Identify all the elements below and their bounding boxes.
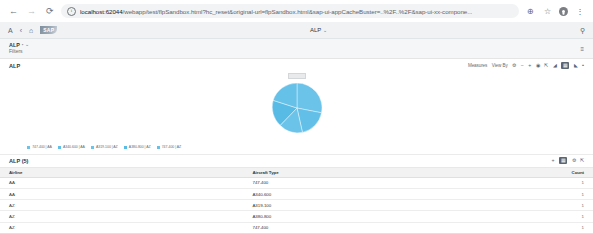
pie-slices (272, 83, 322, 133)
legend-swatch-icon (91, 146, 94, 149)
legend-label: 747-400 | AZ (162, 146, 181, 150)
shell-bar-right-actions: ⚲ (580, 27, 585, 34)
table-toolbar: ALP (5) + ▦ ⚙ ⇱ (0, 154, 593, 167)
grid-view-icon[interactable]: ▦ (559, 157, 567, 163)
shell-bar-left-actions: A ‹ ⌂ SAP (8, 26, 57, 34)
home-icon[interactable]: ⌂ (29, 27, 33, 34)
chart-toolbar: ALP Measures View By ⚙ − + ◉ ⇱ ◢ ▦ ◣ ▪ (0, 59, 593, 72)
pie-chart-svg (271, 82, 323, 134)
table-section: ALP (5) + ▦ ⚙ ⇱ Airline Aircraft Type Co… (0, 154, 593, 234)
sap-logo[interactable]: SAP (40, 26, 57, 34)
adapt-filters-icon[interactable]: ≡ (580, 46, 584, 52)
user-avatar-icon[interactable]: A (8, 27, 13, 34)
chart-viewby-button[interactable]: View By (492, 63, 508, 68)
legend-item[interactable]: A380-800 | AZ (124, 146, 151, 150)
settings-icon[interactable]: ⚙ (512, 63, 516, 68)
legend-swatch-icon (27, 146, 30, 149)
chevron-down-icon: ⌄ (25, 43, 29, 48)
variant-management: ALP * ⌄ Filters (9, 43, 29, 54)
table-row[interactable]: AZ A380-800 1 (0, 211, 593, 222)
column-header-airline[interactable]: Airline (0, 167, 252, 177)
cell-count: 1 (508, 211, 593, 222)
legend-swatch-icon (157, 146, 160, 149)
fullscreen-icon[interactable]: ⇱ (544, 63, 548, 68)
settings-icon[interactable]: ⚙ (572, 158, 576, 163)
address-bar-host: localhost:62044 (80, 8, 123, 15)
browser-toolbar: ← → ⟳ i localhost:62044/webapp/test/flpS… (0, 0, 593, 22)
table-row[interactable]: AA A340-600 1 (0, 189, 593, 200)
table-toolbar-actions: + ▦ ⚙ ⇱ (551, 157, 584, 163)
chart-toolbar-actions: Measures View By ⚙ − + ◉ ⇱ ◢ ▦ ◣ ▪ (468, 62, 584, 68)
reload-icon[interactable]: ⟳ (44, 6, 55, 17)
legend-item[interactable]: A340-600 | AA (58, 146, 85, 150)
shell-app-title[interactable]: ALP ⌄ (57, 27, 580, 33)
chevron-down-icon: ⌄ (323, 27, 327, 33)
cell-aircraft: A319-100 (252, 200, 507, 211)
cell-airline: AZ (0, 211, 252, 222)
legend-swatch-icon (58, 146, 61, 149)
address-bar-path: /webapp/test/flpSandbox.html?hc_reset&or… (123, 8, 473, 15)
legend-item[interactable]: A319-100 | AZ (91, 146, 118, 150)
fullscreen-icon[interactable]: ⇱ (580, 158, 584, 163)
app-content: ALP Measures View By ⚙ − + ◉ ⇱ ◢ ▦ ◣ ▪ (0, 59, 593, 234)
site-info-icon[interactable]: i (67, 7, 76, 16)
profile-avatar[interactable] (559, 7, 568, 16)
cell-airline: AA (0, 177, 252, 188)
fiori-shell-bar: A ‹ ⌂ SAP ALP ⌄ ⚲ (0, 22, 593, 39)
table-row[interactable]: AA 747-400 1 (0, 177, 593, 188)
browser-actions: ⊕ ☆ ⋮ (525, 6, 587, 16)
legend-item[interactable]: 747-400 | AA (27, 146, 52, 150)
table-row[interactable]: AZ 747-400 1 (0, 222, 593, 233)
cell-count: 1 (508, 177, 593, 188)
search-icon[interactable]: ⚲ (580, 27, 585, 34)
table-body: AA 747-400 1 AA A340-600 1 AZ A319-100 1… (0, 177, 593, 233)
address-bar[interactable]: i localhost:62044/webapp/test/flpSandbox… (61, 4, 519, 18)
legend-item[interactable]: 747-400 | AZ (157, 146, 182, 150)
hybrid-view-icon[interactable]: ◣ (574, 63, 578, 68)
legend-label: A319-100 | AZ (96, 146, 118, 150)
chart-measures-button[interactable]: Measures (468, 63, 487, 68)
shell-app-title-text: ALP (310, 27, 321, 33)
cell-aircraft: 747-400 (252, 222, 507, 233)
filter-bar-actions: ≡ (580, 46, 584, 52)
column-header-aircraft[interactable]: Aircraft Type (252, 167, 507, 177)
table-header-row: Airline Aircraft Type Count (0, 167, 593, 177)
legend-swatch-icon (124, 146, 127, 149)
table-head: Airline Aircraft Type Count (0, 167, 593, 177)
chart-type-icon[interactable]: ◢ (553, 63, 557, 68)
cell-airline: AA (0, 189, 252, 200)
cell-aircraft: 747-400 (252, 177, 507, 188)
variant-modified-marker: * (22, 44, 24, 48)
chart-view-icon[interactable]: ▪ (582, 63, 584, 68)
filters-label: Filters (9, 49, 29, 54)
column-header-count[interactable]: Count (508, 167, 593, 177)
cell-aircraft: A380-800 (252, 211, 507, 222)
legend-label: A340-600 | AA (63, 146, 85, 150)
table-title: ALP (5) (9, 158, 28, 164)
kebab-menu-icon[interactable]: ⋮ (575, 6, 585, 16)
forward-arrow-icon[interactable]: → (26, 6, 37, 17)
pie-chart-graphic[interactable] (271, 82, 323, 134)
cell-count: 1 (508, 222, 593, 233)
bookmark-star-icon[interactable]: ☆ (542, 6, 552, 16)
chart-legend: 747-400 | AA A340-600 | AA A319-100 | AZ… (0, 144, 593, 154)
filter-bar: ALP * ⌄ Filters ≡ (0, 39, 593, 59)
legend-label: A380-800 | AZ (129, 146, 151, 150)
zoom-in-icon[interactable]: + (528, 63, 531, 68)
browser-nav-buttons: ← → ⟳ (6, 6, 55, 17)
legend-label: 747-400 | AA (32, 146, 52, 150)
back-chevron-icon[interactable]: ‹ (20, 27, 22, 34)
cell-airline: AZ (0, 200, 252, 211)
pie-chart[interactable] (0, 72, 593, 144)
data-table: Airline Aircraft Type Count AA 747-400 1… (0, 167, 593, 234)
zoom-out-icon[interactable]: − (521, 63, 524, 68)
cell-airline: AZ (0, 222, 252, 233)
zoom-icon[interactable]: ⊕ (525, 6, 535, 16)
pie-slice-0 (297, 83, 322, 113)
add-icon[interactable]: + (551, 158, 554, 163)
legend-icon[interactable]: ◉ (536, 63, 540, 68)
table-view-icon[interactable]: ▦ (561, 62, 569, 68)
chart-title: ALP (9, 63, 20, 69)
table-row[interactable]: AZ A319-100 1 (0, 200, 593, 211)
back-arrow-icon[interactable]: ← (8, 6, 19, 17)
